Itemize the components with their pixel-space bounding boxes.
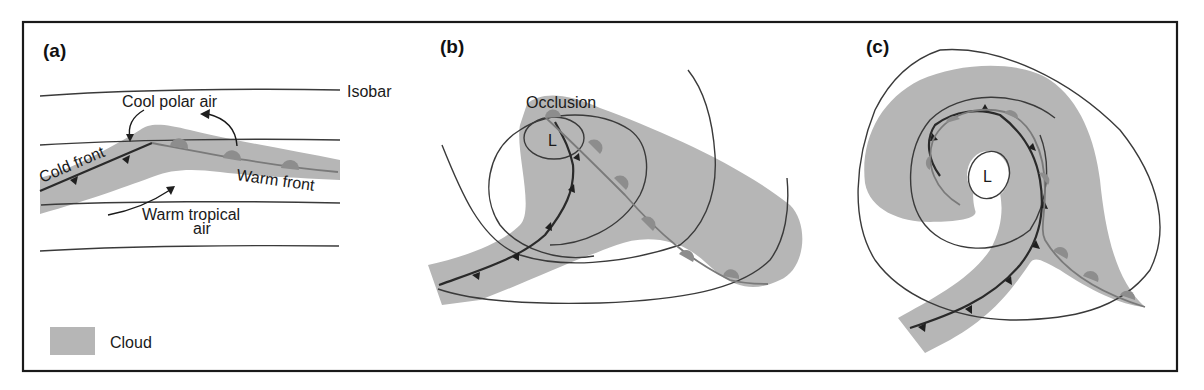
isobar-label: Isobar bbox=[347, 83, 392, 100]
legend: Cloud bbox=[50, 327, 152, 355]
panel-c-low-pressure-label: L bbox=[983, 168, 992, 185]
panel-a: (a) Isobar Cool polar air Cold front War… bbox=[37, 40, 393, 355]
panel-b-low-pressure-label: L bbox=[548, 132, 557, 149]
legend-cloud-label: Cloud bbox=[110, 334, 152, 351]
isobar-4 bbox=[40, 246, 339, 251]
warm-tropical-air-label-2: air bbox=[193, 220, 211, 237]
warm-tropical-air-label-1: Warm tropical bbox=[142, 206, 240, 223]
occlusion-label: Occlusion bbox=[526, 94, 596, 111]
panel-b: (b) Occlusion L bbox=[428, 36, 802, 305]
isobar-3 bbox=[41, 202, 340, 205]
warm-front-bump-icon bbox=[679, 250, 694, 262]
panel-c: (c) L bbox=[858, 36, 1160, 353]
arrowhead-icon bbox=[166, 186, 175, 195]
panel-b-cloud bbox=[428, 95, 802, 305]
panel-c-cloud bbox=[864, 66, 1145, 353]
panel-a-label: (a) bbox=[43, 40, 66, 61]
cool-polar-air-label: Cool polar air bbox=[122, 93, 218, 110]
panel-b-label: (b) bbox=[440, 36, 464, 57]
legend-cloud-swatch bbox=[50, 327, 95, 355]
cyclone-lifecycle-diagram: (a) Isobar Cool polar air Cold front War… bbox=[0, 0, 1204, 390]
panel-c-label: (c) bbox=[866, 36, 889, 57]
arrowhead-icon bbox=[200, 109, 210, 119]
